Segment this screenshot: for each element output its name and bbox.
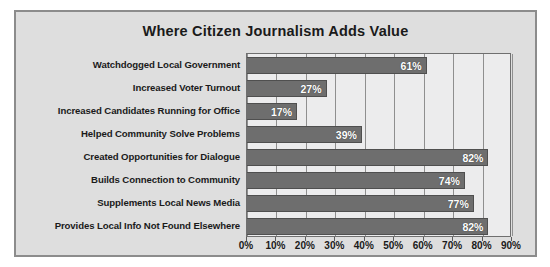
bar-row: 77% <box>247 195 510 212</box>
bar-value-label: 77% <box>448 198 469 210</box>
bar[interactable]: 39% <box>247 126 362 143</box>
bar[interactable]: 77% <box>247 195 474 212</box>
bar-series: 61%27%17%39%82%74%77%82% <box>247 54 510 236</box>
x-tick-label: 0% <box>239 240 253 251</box>
category-label: Watchdogged Local Government <box>16 59 240 70</box>
category-label: Provides Local Info Not Found Elsewhere <box>16 220 240 231</box>
bar[interactable]: 82% <box>247 149 488 166</box>
bar[interactable]: 74% <box>247 172 465 189</box>
category-label: Builds Connection to Community <box>16 174 240 185</box>
bar-value-label: 61% <box>401 60 422 72</box>
x-tick-label: 30% <box>324 240 344 251</box>
x-tick-label: 80% <box>472 240 492 251</box>
bar-row: 39% <box>247 126 510 143</box>
bar-value-label: 82% <box>462 152 483 164</box>
gridline <box>512 54 513 236</box>
bar-value-label: 74% <box>439 175 460 187</box>
category-label: Increased Candidates Running for Office <box>16 105 240 116</box>
x-tick-label: 50% <box>383 240 403 251</box>
category-axis-labels: Watchdogged Local GovernmentIncreased Vo… <box>16 53 244 237</box>
bar[interactable]: 27% <box>247 80 327 97</box>
bar-row: 27% <box>247 80 510 97</box>
category-label: Supplements Local News Media <box>16 197 240 208</box>
bar-row: 17% <box>247 103 510 120</box>
bar[interactable]: 82% <box>247 218 488 235</box>
x-tick-label: 20% <box>295 240 315 251</box>
bar-row: 61% <box>247 57 510 74</box>
x-tick-label: 90% <box>501 240 521 251</box>
x-tick-label: 40% <box>354 240 374 251</box>
x-axis-tick-labels: 0%10%20%30%40%50%60%70%80%90% <box>246 240 511 256</box>
bar-value-label: 39% <box>336 129 357 141</box>
x-tick-label: 10% <box>265 240 285 251</box>
bar[interactable]: 61% <box>247 57 427 74</box>
category-label: Increased Voter Turnout <box>16 82 240 93</box>
chart-figure: Where Citizen Journalism Adds Value Watc… <box>14 10 537 257</box>
bar-value-label: 27% <box>300 83 321 95</box>
x-tick-label: 70% <box>442 240 462 251</box>
bar-value-label: 17% <box>271 106 292 118</box>
chart-title: Where Citizen Journalism Adds Value <box>16 23 535 39</box>
category-label: Created Opportunities for Dialogue <box>16 151 240 162</box>
plot-area: 61%27%17%39%82%74%77%82% <box>246 53 511 237</box>
bar-row: 82% <box>247 149 510 166</box>
bar[interactable]: 17% <box>247 103 297 120</box>
category-label: Helped Community Solve Problems <box>16 128 240 139</box>
bar-row: 74% <box>247 172 510 189</box>
x-tick-label: 60% <box>413 240 433 251</box>
bar-row: 82% <box>247 218 510 235</box>
bar-value-label: 82% <box>462 221 483 233</box>
